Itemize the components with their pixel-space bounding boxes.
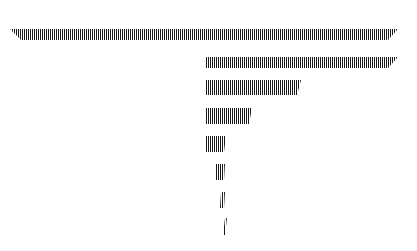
bar-3 <box>205 80 301 95</box>
bars-group <box>10 29 398 235</box>
bar-8 <box>223 218 227 235</box>
bar-6 <box>216 164 225 180</box>
bar-4 <box>205 108 252 124</box>
bar-7 <box>220 192 225 208</box>
bar-5 <box>205 136 226 152</box>
bar-1 <box>10 29 398 40</box>
bar-2 <box>205 57 398 68</box>
funnel-chart <box>0 0 417 251</box>
